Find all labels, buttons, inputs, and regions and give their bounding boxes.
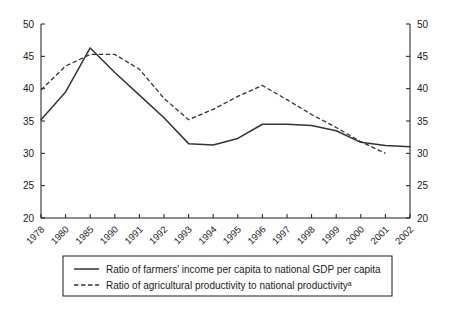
y-axis-right-labels: 20253035404550 <box>417 19 429 224</box>
svg-text:2001: 2001 <box>368 224 391 247</box>
legend-label-1: Ratio of agricultural productivity to na… <box>106 280 352 291</box>
svg-text:50: 50 <box>23 19 35 30</box>
x-axis-ticks <box>41 214 410 218</box>
svg-text:40: 40 <box>417 83 429 94</box>
y-axis-left-labels: 20253035404550 <box>23 19 35 224</box>
svg-text:25: 25 <box>23 180 35 191</box>
svg-text:1995: 1995 <box>220 224 243 247</box>
y-axis-right-ticks <box>406 24 410 218</box>
svg-text:45: 45 <box>417 51 429 62</box>
svg-text:1999: 1999 <box>319 224 342 247</box>
svg-text:35: 35 <box>23 116 35 127</box>
svg-text:1997: 1997 <box>270 224 293 247</box>
svg-text:1990: 1990 <box>97 224 120 247</box>
svg-text:1978: 1978 <box>24 224 47 247</box>
svg-text:45: 45 <box>23 51 35 62</box>
legend-label-0: Ratio of farmers' income per capita to n… <box>106 264 381 275</box>
x-axis-labels: 1978198019851990199119921993199419951996… <box>24 224 416 247</box>
svg-text:20: 20 <box>417 213 429 224</box>
line-chart: 20253035404550 20253035404550 1978198019… <box>0 0 452 309</box>
svg-text:1996: 1996 <box>245 224 268 247</box>
y-axis-left-ticks <box>41 24 45 218</box>
svg-text:1992: 1992 <box>147 224 170 247</box>
svg-text:1980: 1980 <box>48 224 71 247</box>
svg-text:35: 35 <box>417 116 429 127</box>
series-line-agricultural-productivity <box>41 54 385 153</box>
svg-text:40: 40 <box>23 83 35 94</box>
svg-text:1985: 1985 <box>73 224 96 247</box>
svg-text:1998: 1998 <box>294 224 317 247</box>
svg-text:30: 30 <box>23 148 35 159</box>
svg-text:1993: 1993 <box>171 224 194 247</box>
svg-text:30: 30 <box>417 148 429 159</box>
svg-text:2002: 2002 <box>393 224 416 247</box>
series-line-farmers-income <box>41 48 410 147</box>
svg-text:25: 25 <box>417 180 429 191</box>
svg-text:50: 50 <box>417 19 429 30</box>
svg-text:1994: 1994 <box>196 224 219 247</box>
svg-text:2000: 2000 <box>343 224 366 247</box>
svg-text:20: 20 <box>23 213 35 224</box>
chart-container: 20253035404550 20253035404550 1978198019… <box>0 0 452 309</box>
svg-text:1991: 1991 <box>122 224 145 247</box>
